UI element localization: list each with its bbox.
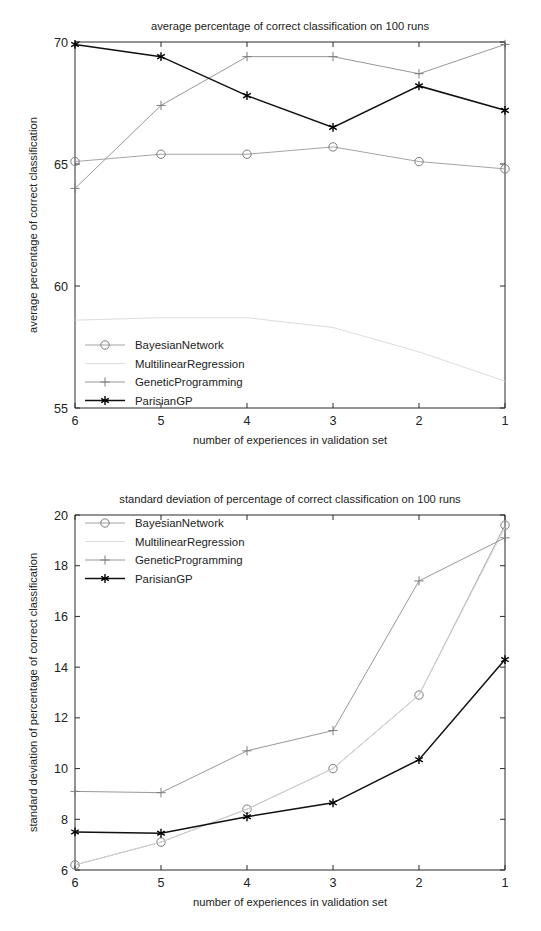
series-line [75, 147, 505, 169]
y-axis-label: average percentage of correct classifica… [27, 117, 39, 333]
legend-label: GeneticProgramming [135, 554, 243, 566]
x-tick-label: 6 [71, 414, 78, 428]
series-parisiangp [71, 655, 509, 837]
chart-legend: BayesianNetworkMultilinearRegressionGene… [85, 339, 245, 407]
legend-label: BayesianNetwork [135, 517, 224, 529]
y-tick-label: 60 [54, 280, 68, 294]
y-tick-label: 70 [54, 36, 68, 50]
legend-item-multilinearregression[interactable]: MultilinearRegression [85, 358, 245, 370]
plot-frame [75, 515, 505, 870]
y-tick-label: 18 [54, 559, 68, 573]
x-tick-label: 2 [415, 876, 422, 890]
x-tick-label: 5 [157, 414, 164, 428]
x-tick-label: 4 [243, 876, 250, 890]
legend-item-bayesiannetwork[interactable]: BayesianNetwork [85, 339, 224, 351]
legend-label: ParisianGP [135, 395, 193, 407]
legend-label: BayesianNetwork [135, 339, 224, 351]
x-tick-label: 3 [329, 414, 336, 428]
legend-item-parisiangp[interactable]: ParisianGP [85, 573, 193, 585]
plot-frame [75, 42, 505, 408]
x-tick-label: 2 [415, 414, 422, 428]
y-axis-label: standard deviation of percentage of corr… [27, 553, 39, 832]
legend-item-parisiangp[interactable]: ParisianGP [85, 395, 193, 407]
series-parisiangp [71, 40, 509, 132]
legend-item-bayesiannetwork[interactable]: BayesianNetwork [85, 517, 224, 529]
stddev-classification-figure: standard deviation of percentage of corr… [0, 465, 541, 931]
legend-label: MultilinearRegression [135, 358, 245, 370]
legend-label: GeneticProgramming [135, 376, 243, 388]
series-geneticprogramming [70, 40, 509, 193]
legend-item-multilinearregression[interactable]: MultilinearRegression [85, 536, 245, 548]
chart-title: standard deviation of percentage of corr… [119, 493, 461, 505]
chart-legend: BayesianNetworkMultilinearRegressionGene… [85, 517, 245, 585]
x-axis-label: number of experiences in validation set [193, 434, 388, 446]
y-tick-label: 16 [54, 610, 68, 624]
x-tick-label: 5 [157, 876, 164, 890]
stddev-classification-chart: standard deviation of percentage of corr… [0, 465, 541, 931]
average-classification-figure: average percentage of correct classifica… [0, 0, 541, 465]
series-bayesiannetwork [71, 143, 509, 173]
y-tick-label: 10 [54, 762, 68, 776]
legend-item-geneticprogramming[interactable]: GeneticProgramming [85, 554, 243, 566]
series-line [75, 44, 505, 188]
y-tick-label: 65 [54, 158, 68, 172]
y-tick-label: 55 [54, 402, 68, 416]
x-axis-label: number of experiences in validation set [193, 896, 388, 908]
x-tick-label: 6 [71, 876, 78, 890]
x-tick-label: 1 [501, 876, 508, 890]
x-tick-label: 1 [501, 414, 508, 428]
y-tick-label: 8 [61, 813, 68, 827]
y-tick-label: 12 [54, 711, 68, 725]
y-tick-label: 20 [54, 509, 68, 523]
legend-label: ParisianGP [135, 573, 193, 585]
x-tick-label: 3 [329, 876, 336, 890]
average-classification-chart: average percentage of correct classifica… [0, 0, 541, 465]
y-tick-label: 6 [61, 864, 68, 878]
y-tick-label: 14 [54, 661, 68, 675]
legend-item-geneticprogramming[interactable]: GeneticProgramming [85, 376, 243, 388]
x-tick-label: 4 [243, 414, 250, 428]
legend-label: MultilinearRegression [135, 536, 245, 548]
series-line [75, 660, 505, 834]
chart-title: average percentage of correct classifica… [151, 20, 429, 32]
